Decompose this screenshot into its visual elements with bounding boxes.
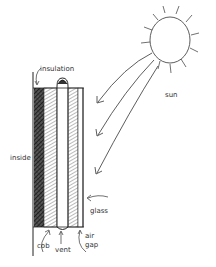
label-insulation: insulation: [40, 66, 74, 73]
label-air: air: [85, 233, 94, 240]
sun-icon: [141, 6, 199, 73]
label-glass: glass: [90, 208, 108, 215]
vent-channel: [57, 78, 68, 227]
sun-ray-arrows: [95, 53, 158, 174]
label-inside: inside: [10, 155, 31, 162]
cob-layer-right: [68, 88, 78, 227]
cob-layer-left: [44, 88, 57, 227]
glass-arrowhead: [87, 195, 91, 201]
label-sun: sun: [165, 92, 178, 99]
label-gap: gap: [85, 242, 98, 249]
trombe-wall-diagram: [0, 0, 216, 267]
glass-arrow: [88, 196, 108, 198]
air-gap: [78, 88, 83, 227]
label-vent: vent: [55, 247, 71, 254]
label-cob: cob: [37, 243, 50, 250]
insulation-layer: [34, 88, 44, 227]
